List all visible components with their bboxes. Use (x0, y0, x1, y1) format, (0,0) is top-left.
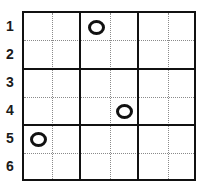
circle-icon (88, 20, 105, 35)
dotted-divider (110, 13, 111, 179)
puzzle-grid[interactable] (22, 11, 196, 181)
grid-cell-r5c1[interactable] (24, 125, 52, 153)
box-divider (24, 68, 194, 70)
row-label-6: 6 (0, 152, 20, 180)
dotted-divider (24, 153, 194, 154)
row-label-1: 1 (0, 12, 20, 40)
dotted-divider (52, 13, 53, 179)
row-label-2: 2 (0, 40, 20, 68)
circle-icon (116, 104, 133, 119)
dotted-divider (24, 97, 194, 98)
box-divider (137, 13, 139, 179)
grid-cell-r1c3[interactable] (82, 13, 110, 41)
dotted-divider (168, 13, 169, 179)
row-label-5: 5 (0, 124, 20, 152)
row-labels: 1 2 3 4 5 6 (0, 12, 20, 181)
row-label-4: 4 (0, 96, 20, 124)
row-label-3: 3 (0, 68, 20, 96)
box-divider (79, 13, 81, 179)
circle-icon (30, 132, 47, 147)
grid-cell-r4c4[interactable] (110, 97, 138, 125)
